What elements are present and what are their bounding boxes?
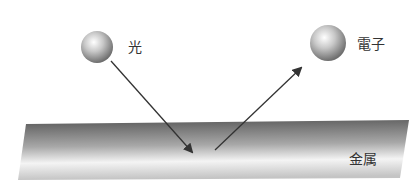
electron-sphere <box>310 25 346 61</box>
electron-label: 電子 <box>357 37 385 51</box>
photon-sphere <box>81 31 113 63</box>
metal-label: 金属 <box>349 152 377 166</box>
light-label: 光 <box>128 40 142 54</box>
metal-slab <box>18 120 409 180</box>
